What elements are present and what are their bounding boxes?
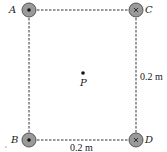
wire-d-cross-icon xyxy=(129,133,143,147)
label-b: B xyxy=(11,135,18,145)
label-a: A xyxy=(9,5,16,15)
dashed-square xyxy=(29,10,136,140)
point-p-dot-icon xyxy=(81,71,85,75)
stray-mark xyxy=(5,146,6,147)
label-p: P xyxy=(80,78,87,88)
wire-b-dot-icon xyxy=(22,133,36,147)
label-c: C xyxy=(145,5,153,15)
wire-a-dot-icon xyxy=(22,3,36,17)
label-d: D xyxy=(145,135,153,145)
dimension-right: 0.2 m xyxy=(140,72,163,82)
wire-c-cross-icon xyxy=(129,3,143,17)
dimension-bottom: 0.2 m xyxy=(70,143,93,152)
